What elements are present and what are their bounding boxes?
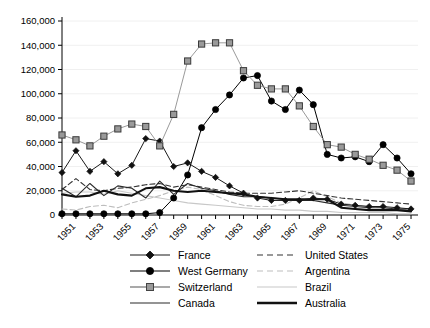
legend-item-france[interactable]: France [128, 247, 248, 262]
svg-text:1963: 1963 [222, 221, 245, 240]
legend-label-canada: Canada [172, 296, 215, 310]
legend-label-switzerland: Switzerland [172, 280, 232, 294]
legend-item-switzerland[interactable]: Switzerland [128, 279, 248, 294]
legend-item-brazil[interactable]: Brazil [255, 279, 368, 294]
thick-line-key-icon [255, 296, 299, 310]
svg-text:1971: 1971 [334, 221, 357, 240]
svg-text:1967: 1967 [278, 221, 301, 240]
light-dashed-line-key-icon [255, 264, 299, 278]
legend-label-brazil: Brazil [299, 280, 331, 294]
line-chart-svg: 020,00040,00060,00080,000100,000120,0001… [0, 0, 430, 240]
x-axis-ticks [62, 215, 411, 219]
svg-text:0: 0 [50, 209, 55, 220]
legend-label-west-germany: West Germany [172, 264, 248, 278]
chart-legend: France West Germany Switzerland Canada [0, 247, 430, 325]
legend-item-argentina[interactable]: Argentina [255, 263, 368, 278]
svg-text:1975: 1975 [390, 221, 413, 240]
svg-text:1973: 1973 [362, 221, 385, 240]
svg-text:1957: 1957 [138, 221, 161, 240]
chart-plot-area: 020,00040,00060,00080,000100,000120,0001… [0, 0, 430, 240]
svg-text:1959: 1959 [166, 221, 189, 240]
circle-line-key-icon [128, 264, 172, 278]
dashed-line-key-icon [255, 248, 299, 262]
svg-text:1961: 1961 [194, 221, 217, 240]
svg-text:80,000: 80,000 [26, 112, 55, 123]
legend-label-france: France [172, 248, 211, 262]
diamond-line-key-icon [128, 248, 172, 262]
svg-text:100,000: 100,000 [21, 88, 55, 99]
legend-column-right: United States Argentina Brazil Australia [255, 247, 368, 311]
legend-column-left: France West Germany Switzerland Canada [128, 247, 248, 311]
svg-text:1955: 1955 [110, 221, 133, 240]
legend-label-australia: Australia [299, 296, 346, 310]
legend-label-united-states: United States [299, 248, 368, 262]
axes [62, 17, 418, 215]
svg-text:1953: 1953 [83, 221, 106, 240]
legend-item-united-states[interactable]: United States [255, 247, 368, 262]
legend-item-canada[interactable]: Canada [128, 295, 248, 310]
series-canada [62, 181, 411, 209]
svg-text:40,000: 40,000 [26, 161, 55, 172]
legend-item-australia[interactable]: Australia [255, 295, 368, 310]
legend-label-argentina: Argentina [299, 264, 350, 278]
gridlines [62, 21, 418, 191]
svg-text:120,000: 120,000 [21, 64, 55, 75]
svg-text:140,000: 140,000 [21, 40, 55, 51]
svg-text:1951: 1951 [55, 221, 78, 240]
plain-line-key-icon [128, 296, 172, 310]
svg-text:20,000: 20,000 [26, 185, 55, 196]
light-line-key-icon [255, 280, 299, 294]
chart-figure: 020,00040,00060,00080,000100,000120,0001… [0, 0, 430, 328]
x-axis-tick-labels: 1951195319551957195919611963196519671969… [55, 221, 413, 240]
svg-text:160,000: 160,000 [21, 15, 55, 26]
svg-text:1969: 1969 [306, 221, 329, 240]
svg-text:60,000: 60,000 [26, 137, 55, 148]
series-france [59, 136, 414, 213]
series-switzerland [59, 40, 414, 184]
legend-item-west-germany[interactable]: West Germany [128, 263, 248, 278]
y-axis-ticks: 020,00040,00060,00080,000100,000120,0001… [21, 15, 62, 220]
square-line-key-icon [128, 280, 172, 294]
svg-text:1965: 1965 [250, 221, 273, 240]
